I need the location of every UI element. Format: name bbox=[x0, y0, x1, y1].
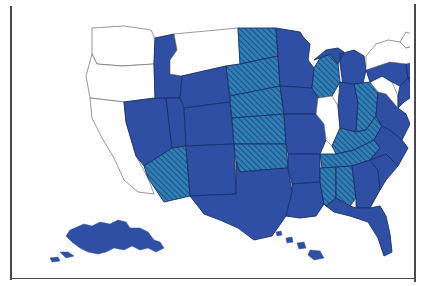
state-WA[interactable] bbox=[92, 26, 155, 66]
page-frame-bottom-rule bbox=[11, 278, 415, 279]
state-LA[interactable] bbox=[286, 182, 324, 218]
state-IA[interactable] bbox=[280, 86, 318, 114]
state-NM[interactable] bbox=[186, 144, 236, 196]
page-frame-left-rule bbox=[10, 6, 12, 280]
scanned-page bbox=[0, 0, 424, 286]
page-frame-right-rule bbox=[414, 4, 416, 282]
state-MN[interactable] bbox=[276, 28, 314, 88]
state-KS[interactable] bbox=[232, 114, 286, 144]
us-map-figure bbox=[14, 2, 410, 276]
state-CO[interactable] bbox=[184, 102, 234, 146]
us-map-svg bbox=[14, 2, 410, 276]
state-MO[interactable] bbox=[284, 114, 326, 154]
state-HI[interactable] bbox=[270, 228, 324, 260]
state-AK[interactable] bbox=[50, 220, 164, 262]
state-OK[interactable] bbox=[234, 144, 288, 172]
state-AR[interactable] bbox=[288, 154, 320, 184]
state-shapes-group bbox=[50, 16, 410, 262]
